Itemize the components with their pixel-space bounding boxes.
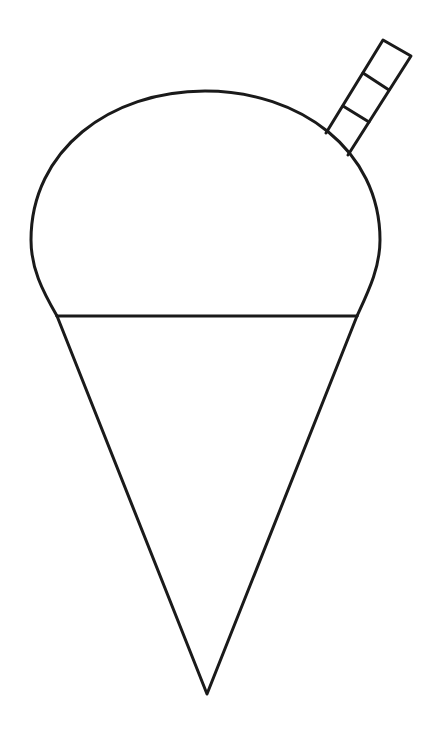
ice-dome-icon (31, 91, 380, 316)
straw-icon (326, 40, 411, 155)
snow-cone-drawing (0, 0, 435, 741)
cone-icon (57, 316, 357, 694)
